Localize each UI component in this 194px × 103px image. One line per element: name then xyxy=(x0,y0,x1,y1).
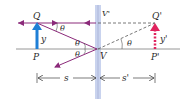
label-yprime: y' xyxy=(159,34,168,44)
label-P: P xyxy=(32,52,40,62)
plane-mirror-diagram: Q P y Q' P' y' V' V θ θ θ θ s s' xyxy=(0,0,194,103)
angle-arc-1 xyxy=(56,23,57,31)
label-Q: Q xyxy=(33,11,41,21)
label-theta-3: θ xyxy=(75,50,80,59)
label-s: s xyxy=(64,73,69,83)
label-y: y xyxy=(40,34,47,44)
label-theta-4: θ xyxy=(127,39,132,48)
label-Vprime: V' xyxy=(102,9,110,18)
ray-arrow-incoming xyxy=(84,20,90,26)
label-theta-2: θ xyxy=(75,39,80,48)
angle-arc-3 xyxy=(84,49,85,54)
label-sprime: s' xyxy=(122,73,129,83)
label-theta-1: θ xyxy=(60,24,65,33)
label-Qprime: Q' xyxy=(152,11,162,21)
image-arrowhead xyxy=(150,23,160,31)
label-V: V xyxy=(100,51,108,61)
angle-arc-4 xyxy=(121,39,122,49)
label-Pprime: P' xyxy=(150,52,160,62)
ray-arrow-left xyxy=(18,20,24,26)
